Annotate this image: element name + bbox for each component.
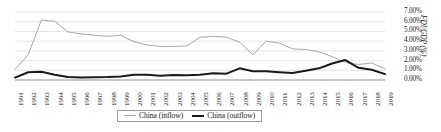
legend-swatch-outflow-icon	[192, 115, 204, 117]
chart-legend: China (inflow) China (outflow)	[117, 110, 262, 122]
x-tick-label: 2007	[229, 92, 236, 106]
series-lines	[15, 12, 385, 80]
x-tick-label: 2005	[203, 92, 210, 106]
x-tick-label: 2014	[322, 92, 329, 106]
x-tick-label: 2016	[348, 92, 355, 106]
series-line	[15, 20, 385, 69]
x-tick-label: 2009	[255, 92, 262, 106]
x-tick-label: 1995	[70, 92, 77, 106]
x-tick-label: 1994	[57, 92, 64, 106]
legend-label-outflow: China (outflow)	[207, 112, 255, 120]
legend-label-inflow: China (inflow)	[139, 112, 183, 120]
x-tick-label: 1993	[44, 92, 51, 106]
x-tick-label: 2000	[137, 92, 144, 106]
x-tick-label: 2002	[163, 92, 170, 106]
x-tick-label: 1996	[84, 92, 91, 106]
x-tick-label: 1999	[123, 92, 130, 106]
x-tick-label: 2012	[295, 92, 302, 106]
x-tick-label: 2015	[335, 92, 342, 106]
x-tick-label: 1992	[31, 92, 38, 106]
x-tick-label: 2019	[388, 92, 395, 106]
x-tick-label: 2018	[374, 92, 381, 106]
x-tick-label: 2017	[361, 92, 368, 106]
x-tick-label: 1991	[18, 92, 25, 106]
y-axis-title: FDI/GDP (%)	[416, 15, 428, 83]
x-tick-label: 2003	[176, 92, 183, 106]
fdi-gdp-line-chart: 0.00%1.00%2.00%3.00%4.00%5.00%6.00%7.00%…	[0, 0, 441, 132]
x-tick-label: 2008	[242, 92, 249, 106]
x-tick-label: 2013	[308, 92, 315, 106]
plot-area	[15, 12, 385, 80]
x-tick-label: 1997	[97, 92, 104, 106]
x-tick-label: 2001	[150, 92, 157, 106]
x-tick-label: 2006	[216, 92, 223, 106]
x-tick-label: 2004	[189, 92, 196, 106]
x-tick-label: 2010	[269, 92, 276, 106]
x-axis-tick-labels: 1991199219931994199519961997199819992000…	[15, 81, 385, 107]
series-line	[15, 60, 385, 77]
legend-swatch-inflow-icon	[124, 115, 136, 116]
x-tick-label: 1998	[110, 92, 117, 106]
legend-entry-outflow: China (outflow)	[192, 112, 255, 120]
x-tick-label: 2011	[282, 92, 289, 106]
legend-entry-inflow: China (inflow)	[124, 112, 183, 120]
